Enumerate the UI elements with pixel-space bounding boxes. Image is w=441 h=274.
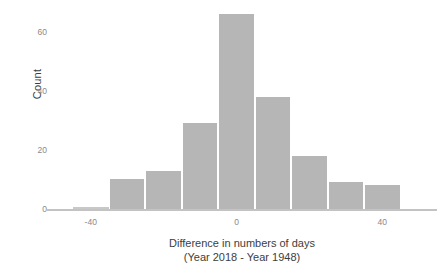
histogram-chart: Count 0204060 -40040 Difference in numbe…	[0, 0, 441, 274]
histogram-bar	[73, 207, 109, 209]
x-axis-tick-label: 40	[362, 218, 402, 227]
x-axis-tick-label: 0	[217, 218, 257, 227]
x-axis-title-line1: Difference in numbers of days	[169, 237, 315, 249]
histogram-bar	[182, 123, 218, 209]
y-axis-tick-label: 40	[3, 87, 47, 96]
histogram-bar	[255, 97, 291, 209]
x-axis-title-line2: (Year 2018 - Year 1948)	[47, 250, 437, 264]
y-axis-tick-label: 60	[3, 28, 47, 37]
histogram-bar	[328, 182, 364, 209]
x-axis-tick-label: -40	[71, 218, 111, 227]
x-axis-tick-labels: -40040	[47, 218, 437, 232]
histogram-bar	[109, 179, 145, 209]
x-axis-title: Difference in numbers of days (Year 2018…	[47, 236, 437, 264]
histogram-bar	[218, 14, 254, 209]
histogram-bar	[291, 156, 327, 209]
y-axis-tick-label: 0	[3, 205, 47, 214]
x-axis-line	[47, 209, 437, 211]
histogram-bar	[364, 185, 400, 209]
plot-area	[47, 4, 437, 211]
y-axis-tick-label: 20	[3, 146, 47, 155]
histogram-bar	[145, 171, 181, 209]
y-axis-tick-labels: 0204060	[0, 0, 47, 274]
